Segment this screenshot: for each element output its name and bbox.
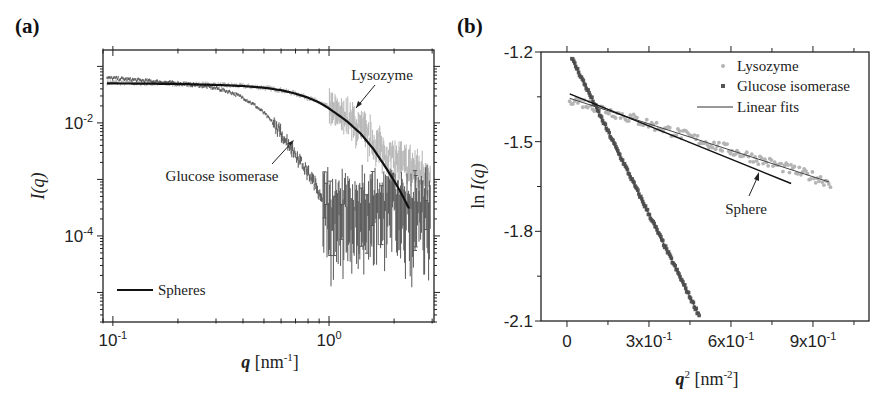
lysozyme-point — [761, 162, 765, 166]
lysozyme-point — [733, 152, 737, 156]
chart-a-saxs-log-plot: 10-110010-210-4q [nm-1]I(q)LysozymeGluco… — [28, 46, 440, 372]
x-tick-label: 3x10-1 — [626, 330, 673, 351]
y-tick-label: -1.2 — [504, 43, 533, 62]
x-tick-label: 6x10-1 — [708, 330, 755, 351]
lysozyme-point — [645, 118, 649, 122]
y-axis-title: I(q) — [28, 173, 49, 201]
lysozyme-point — [748, 160, 752, 164]
figure: 10-110010-210-4q [nm-1]I(q)LysozymeGluco… — [0, 0, 896, 414]
lysozyme-point — [619, 116, 623, 120]
lysozyme-point — [786, 163, 790, 167]
lysozyme-point — [781, 170, 785, 174]
lysozyme-point — [751, 160, 755, 164]
lysozyme-point — [581, 105, 585, 109]
x-axis-title: q [nm-1] — [241, 351, 299, 372]
y-axis-title: ln I(q) — [468, 163, 489, 209]
lysozyme-point — [822, 183, 826, 187]
lysozyme-point — [627, 119, 631, 123]
plot-frame-a — [103, 50, 434, 322]
lysozyme-point — [655, 121, 659, 125]
lysozyme-point — [814, 181, 818, 185]
y-tick-label: -1.5 — [504, 133, 533, 152]
linear-fit-line — [572, 59, 698, 313]
legend-glucose-label: Glucose isomerase — [737, 78, 850, 94]
lysozyme-point — [586, 106, 590, 110]
lysozyme-point — [817, 179, 821, 183]
x-tick-label: 10-1 — [99, 329, 128, 350]
lysozyme-point — [789, 163, 793, 167]
lysozyme-point — [779, 162, 783, 166]
glucose-isomerase-point — [697, 314, 701, 318]
legend-lysozyme-label: Lysozyme — [737, 58, 799, 74]
legend-glucose-marker — [721, 84, 725, 88]
legend-lysozyme-marker — [721, 64, 725, 68]
lysozyme-point — [635, 116, 639, 120]
lysozyme-point — [696, 134, 700, 138]
lysozyme-point — [792, 165, 796, 169]
legend-spheres-label: Spheres — [158, 282, 206, 298]
lysozyme-point — [692, 133, 696, 137]
arrowhead-icon — [754, 172, 759, 181]
lysozyme-point — [710, 146, 714, 150]
annotation-lysozyme: Lysozyme — [351, 67, 413, 83]
legend-linear-fits-label: Linear fits — [737, 99, 799, 115]
lysozyme-point — [614, 116, 618, 120]
lysozyme-point — [809, 177, 813, 181]
lysozyme-point — [829, 185, 833, 189]
lysozyme-point — [766, 164, 770, 168]
lysozyme-point — [788, 171, 792, 175]
plot-area-b — [568, 57, 833, 317]
y-tick-label: -1.8 — [504, 222, 533, 241]
x-axis-title: q2 [nm-2] — [675, 368, 738, 389]
annotation-glucose-isomerase: Glucose isomerase — [166, 168, 279, 184]
x-tick-label: 100 — [316, 329, 341, 350]
x-tick-label: 9x10-1 — [790, 330, 837, 351]
lysozyme-point — [811, 170, 815, 174]
y-tick-label: 10-4 — [64, 225, 93, 246]
lysozyme-point — [712, 141, 716, 145]
lysozyme-point — [750, 152, 754, 156]
annotation-sphere: Sphere — [725, 201, 767, 217]
lysozyme-point — [668, 126, 672, 130]
lysozyme-point — [770, 158, 774, 162]
lysozyme-point — [755, 159, 759, 163]
lysozyme-point — [607, 112, 611, 116]
lysozyme-point — [725, 142, 729, 146]
chart-b-guinier-plot: 03x10-16x10-19x10-1-1.2-1.5-1.8-2.1q2 [n… — [468, 43, 869, 389]
lysozyme-point — [797, 165, 801, 169]
lysozyme-point — [717, 141, 721, 145]
lysozyme-point — [678, 129, 682, 133]
lysozyme-point — [745, 150, 749, 154]
y-tick-label: -2.1 — [504, 312, 533, 331]
lysozyme-point — [756, 162, 760, 166]
x-tick-label: 0 — [562, 332, 571, 351]
y-tick-label: 10-2 — [64, 112, 93, 133]
lysozyme-point — [720, 149, 724, 153]
